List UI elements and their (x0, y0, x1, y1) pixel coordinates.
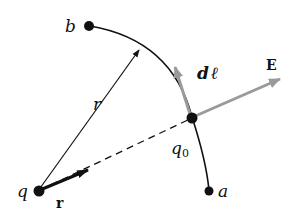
electric-potential-diagram: b a r q q0 r dℓ E (0, 0, 303, 212)
label-q0-main: q (171, 138, 182, 158)
point-b (84, 21, 94, 31)
label-dl-ell: ℓ (211, 63, 218, 83)
radius-vector-r (38, 50, 139, 191)
label-dl: dℓ (197, 63, 218, 83)
label-e: E (266, 57, 277, 73)
label-a: a (218, 181, 228, 201)
label-q0-subscript: 0 (182, 147, 189, 160)
e-field-vector (193, 79, 280, 117)
charge-q (34, 186, 45, 197)
label-b: b (65, 16, 76, 36)
test-charge-q0 (187, 113, 198, 124)
point-a (205, 187, 214, 196)
label-dl-d: d (197, 63, 209, 83)
unit-vector-r-hat (40, 170, 88, 190)
dl-vector (175, 67, 191, 117)
label-q: q (17, 181, 28, 201)
label-q0: q0 (171, 138, 189, 160)
label-r-hat: r (56, 195, 64, 211)
path-arc (90, 26, 209, 190)
label-r: r (93, 94, 102, 114)
